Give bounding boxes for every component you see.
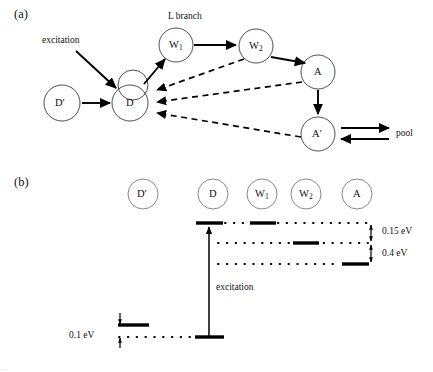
edge-a-to-d-dashed (157, 82, 302, 102)
excitation-label-panel-a: excitation (42, 36, 79, 46)
node-label-aprime-text: A (312, 128, 320, 139)
prime-mark: ′ (63, 97, 65, 108)
column-label-w1: W1 (255, 189, 269, 200)
node-label-dprime: D′ (55, 98, 65, 109)
column-label-w1-sub: 1 (265, 192, 269, 201)
column-label-a: A (353, 189, 361, 200)
energy-label-04: 0.4 eV (382, 249, 407, 259)
column-label-w2: W2 (299, 189, 313, 200)
column-label-w2-sub: 2 (309, 192, 313, 201)
energy-label-015: 0.15 eV (382, 227, 412, 237)
node-label-a: A (314, 67, 322, 78)
node-label-aprime: A′ (312, 129, 322, 140)
prime-mark-a: ′ (320, 128, 322, 139)
edge-w2-to-d-dashed (157, 59, 244, 90)
panel-b-energy-levels (118, 223, 369, 337)
excitation-label-panel-b: excitation (216, 283, 253, 293)
node-label-w1-text: W (169, 39, 179, 50)
panel-a-nodes (44, 28, 335, 151)
figure-root: (a) (b) excitation L branch pool D′ D W1… (0, 0, 433, 372)
panel-b-dotted-rows (119, 223, 368, 337)
edge-excitation-to-d (76, 51, 116, 88)
node-label-a-text: A (314, 66, 322, 77)
edge-d-to-w1 (144, 59, 165, 84)
column-label-dprime: D′ (137, 189, 147, 200)
prime-mark-b1: ′ (145, 188, 147, 199)
caption-partial: .... (0, 363, 433, 372)
column-label-d: D (209, 189, 217, 200)
panel-b-column-nodes (128, 179, 372, 209)
pool-label: pool (396, 129, 413, 139)
l-branch-label: L branch (168, 12, 202, 22)
column-label-d-text: D (209, 188, 217, 199)
node-label-d: D (126, 98, 134, 109)
column-label-w2-text: W (299, 188, 309, 199)
node-label-dprime-text: D (55, 97, 63, 108)
column-label-dprime-text: D (137, 188, 145, 199)
node-label-w1-sub: 1 (179, 43, 183, 52)
energy-label-01: 0.1 eV (69, 331, 94, 341)
panel-b-tag: (b) (14, 176, 29, 189)
node-label-w1: W1 (169, 40, 183, 51)
panel-a-tag: (a) (14, 8, 28, 21)
column-label-w1-text: W (255, 188, 265, 199)
edge-w2-to-a (271, 57, 305, 63)
node-label-d-text: D (126, 97, 134, 108)
panel-a-edges (76, 45, 389, 139)
node-label-w2: W2 (249, 41, 263, 52)
node-label-w2-sub: 2 (259, 44, 263, 53)
column-label-a-text: A (353, 188, 361, 199)
edge-aprime-to-d-dashed (157, 113, 301, 137)
figure-vector-layer (0, 0, 433, 372)
node-label-w2-text: W (249, 40, 259, 51)
